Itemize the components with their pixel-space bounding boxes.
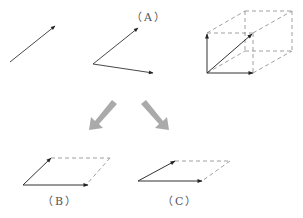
label-a: （A）	[131, 8, 167, 24]
parallelogram-c	[138, 161, 230, 181]
label-c: （C）	[162, 192, 198, 208]
box-decomposition	[207, 11, 292, 73]
single-vector	[10, 26, 55, 62]
two-vectors	[93, 28, 153, 73]
parallelogram-b	[23, 158, 110, 185]
vector-diagram	[0, 0, 303, 218]
label-b: （B）	[42, 192, 78, 208]
gray-arrows	[89, 100, 169, 130]
